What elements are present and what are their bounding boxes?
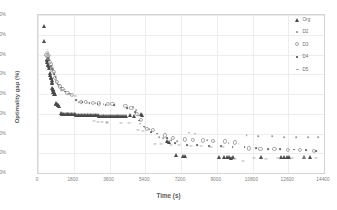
data-point-d5 xyxy=(86,102,89,103)
data-point-d4 xyxy=(196,144,198,146)
chart-legend: OrgD2D3D4D5 xyxy=(294,17,310,72)
data-point-d4 xyxy=(315,150,317,152)
x-axis-tick-label: 14400 xyxy=(316,177,329,182)
data-point-d2 xyxy=(272,136,274,138)
data-point-d3 xyxy=(96,101,100,105)
data-point-org xyxy=(51,87,55,91)
data-point-d4 xyxy=(232,146,234,148)
data-point-d3 xyxy=(129,106,133,110)
data-point-d5 xyxy=(92,121,95,122)
data-point-org xyxy=(49,75,53,79)
data-point-d5 xyxy=(100,121,103,122)
y-axis-tick-label: 70% xyxy=(0,31,6,36)
data-point-d3 xyxy=(84,100,88,104)
data-point-d2 xyxy=(47,52,49,54)
data-point-d3 xyxy=(53,76,57,80)
data-point-d2 xyxy=(55,79,57,81)
data-point-d4 xyxy=(244,146,246,148)
data-point-d5 xyxy=(221,146,224,147)
data-point-org xyxy=(47,64,51,68)
data-point-d4 xyxy=(48,60,50,62)
legend-label: D4 xyxy=(302,54,308,59)
data-point-org xyxy=(122,114,126,118)
data-point-d2 xyxy=(81,102,83,104)
legend-item-d2[interactable]: D2 xyxy=(294,29,310,34)
data-point-d3 xyxy=(61,87,65,91)
legend-marker-dash-icon xyxy=(294,69,300,70)
data-point-org xyxy=(45,58,49,62)
data-point-d5 xyxy=(58,85,61,86)
data-point-d2 xyxy=(95,102,97,104)
legend-item-d5[interactable]: D5 xyxy=(294,67,310,72)
data-point-d3 xyxy=(47,60,51,64)
y-axis-tick-label: 30% xyxy=(0,110,6,115)
data-point-d2 xyxy=(62,90,64,92)
data-point-d2 xyxy=(206,140,208,142)
data-point-d3 xyxy=(151,128,155,132)
gridline-vertical xyxy=(38,15,39,173)
data-point-org xyxy=(308,155,312,159)
data-point-d2 xyxy=(137,115,139,117)
data-point-org xyxy=(54,102,58,106)
data-point-org xyxy=(46,62,50,66)
data-point-d2 xyxy=(307,136,309,138)
data-point-org xyxy=(45,57,49,61)
data-point-d3 xyxy=(171,136,175,140)
gridline-vertical xyxy=(110,15,111,173)
data-point-d5 xyxy=(241,161,244,162)
legend-item-org[interactable]: Org xyxy=(294,17,310,22)
legend-item-d3[interactable]: D3 xyxy=(294,42,310,47)
data-point-d3 xyxy=(91,101,95,105)
data-point-d5 xyxy=(291,157,294,158)
data-point-d2 xyxy=(60,89,62,91)
data-point-d5 xyxy=(105,122,108,123)
data-point-d2 xyxy=(50,66,52,68)
data-point-org xyxy=(54,101,58,105)
x-axis-tick-label: 7200 xyxy=(175,177,186,182)
data-point-d4 xyxy=(208,145,210,147)
data-point-org xyxy=(231,155,235,159)
data-point-d4 xyxy=(82,101,84,103)
data-point-d4 xyxy=(47,57,49,59)
legend-item-d4[interactable]: D4 xyxy=(294,54,310,59)
data-point-d4 xyxy=(293,149,295,151)
data-point-d5 xyxy=(78,101,81,102)
legend-marker-dot-icon xyxy=(294,31,300,33)
data-point-d3 xyxy=(233,140,237,144)
data-point-d3 xyxy=(58,84,62,88)
data-point-d3 xyxy=(123,104,127,108)
data-point-d2 xyxy=(317,137,319,139)
y-axis-tick-label: 40% xyxy=(0,91,6,96)
legend-marker-triangle-icon xyxy=(294,18,300,22)
data-point-org xyxy=(165,139,169,143)
y-axis-tick-label: 50% xyxy=(0,71,6,76)
data-point-d2 xyxy=(139,123,141,125)
data-point-d5 xyxy=(49,62,52,63)
y-axis-tick-label: 80% xyxy=(0,12,6,17)
data-point-d3 xyxy=(139,118,143,122)
data-point-d2 xyxy=(176,141,178,143)
scatter-chart: 0%10%20%30%40%50%60%70%80% 0180036005400… xyxy=(0,0,337,210)
data-point-org xyxy=(55,102,59,106)
data-point-d5 xyxy=(199,146,202,147)
data-point-org xyxy=(51,88,55,92)
data-point-d4 xyxy=(279,148,281,150)
gridline-vertical xyxy=(324,15,325,173)
data-point-d4 xyxy=(114,105,116,107)
data-point-d5 xyxy=(170,144,173,145)
data-point-d4 xyxy=(51,68,53,70)
data-point-d2 xyxy=(57,82,59,84)
data-point-org xyxy=(229,156,233,160)
data-point-d2 xyxy=(214,141,216,143)
data-point-d5 xyxy=(45,52,48,53)
data-point-d3 xyxy=(110,102,114,106)
x-axis-tick-label: 0 xyxy=(36,177,39,182)
data-point-d2 xyxy=(132,106,134,108)
data-point-d5 xyxy=(189,145,192,146)
data-point-d5 xyxy=(54,75,57,76)
data-point-d3 xyxy=(79,99,83,103)
data-point-d2 xyxy=(78,101,80,103)
data-point-org xyxy=(124,114,128,118)
x-axis-tick-label: 9000 xyxy=(210,177,221,182)
data-point-d5 xyxy=(62,90,65,91)
